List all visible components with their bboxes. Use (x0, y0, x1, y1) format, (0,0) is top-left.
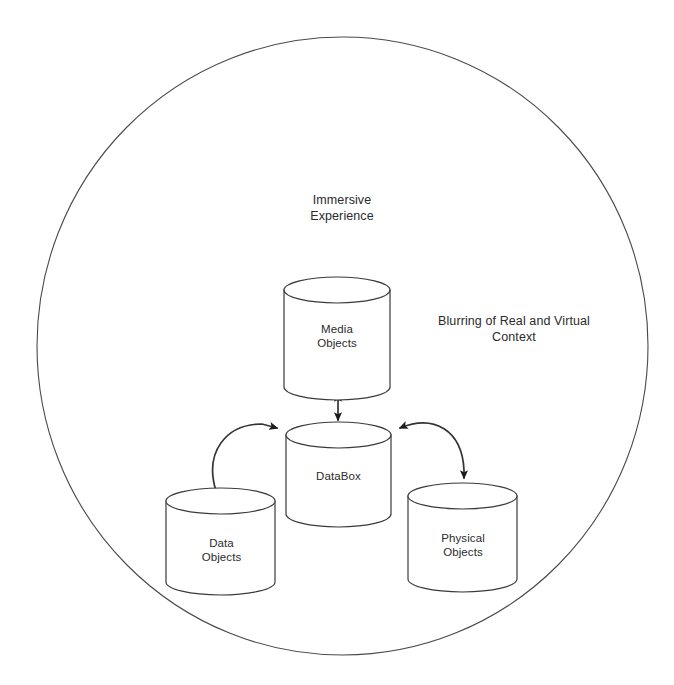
cylinder-top (408, 483, 517, 509)
databox-node-label: DataBox (316, 469, 361, 483)
databox-physical-objects-connector (400, 423, 464, 478)
blurring-label: Blurring of Real and Virtual Context (438, 314, 590, 345)
media-objects-node-label: Media Objects (317, 322, 357, 351)
cylinder-top (166, 488, 275, 514)
physical-objects-node-label: Physical Objects (441, 531, 485, 560)
diagram-canvas: Immersive ExperienceBlurring of Real and… (0, 0, 674, 685)
immersive-experience-label: Immersive Experience (310, 193, 374, 224)
data-objects-node-label: Data Objects (202, 536, 242, 565)
data-objects-databox-connector (213, 424, 277, 491)
cylinder-top (284, 277, 390, 303)
cylinder-top (286, 422, 391, 448)
